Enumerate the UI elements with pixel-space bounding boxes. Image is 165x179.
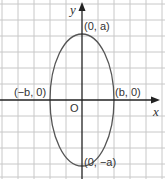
x-axis-arrow-icon <box>151 97 160 104</box>
x-axis-label: x <box>152 104 159 119</box>
y-axis-label: y <box>68 2 76 17</box>
point-top-label: (0, a) <box>84 20 110 32</box>
origin-label: O <box>70 102 79 114</box>
y-axis-arrow-icon <box>79 2 86 11</box>
point-right-label: (b, 0) <box>115 86 141 98</box>
ellipse-diagram: x y O (0, a) (0, −a) (−b, 0) (b, 0) <box>0 0 165 179</box>
point-bottom-label: (0, −a) <box>84 156 116 168</box>
point-left-label: (−b, 0) <box>14 86 46 98</box>
